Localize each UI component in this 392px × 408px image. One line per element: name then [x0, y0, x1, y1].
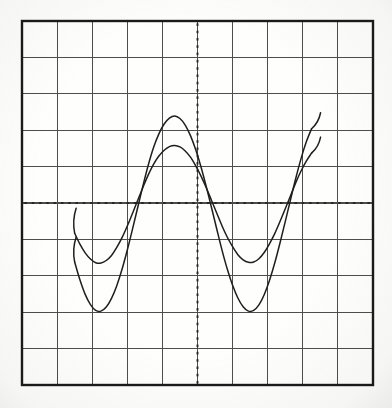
center-axis-tick-horizontal	[97, 202, 100, 204]
center-axis-tick-horizontal	[61, 202, 64, 204]
center-axis-tick-horizontal	[331, 202, 334, 204]
center-axis-tick-horizontal	[119, 202, 122, 204]
center-axis-tick-vertical	[197, 366, 199, 369]
center-axis-tick-horizontal	[360, 202, 363, 204]
center-axis-tick-horizontal	[367, 202, 370, 204]
center-axis-tick-vertical	[197, 359, 199, 362]
center-axis-tick-horizontal	[221, 202, 224, 204]
center-axis-tick-horizontal	[156, 202, 159, 204]
center-axis-tick-vertical	[197, 250, 199, 253]
center-axis-tick-vertical	[197, 31, 199, 34]
center-axis-tick-vertical	[197, 330, 199, 333]
center-axis-tick-horizontal	[294, 202, 297, 204]
center-axis-tick-vertical	[197, 279, 199, 282]
center-axis-tick-horizontal	[112, 202, 115, 204]
center-axis-tick-vertical	[197, 140, 199, 143]
center-axis-tick-vertical	[197, 293, 199, 296]
center-axis-tick-vertical	[197, 352, 199, 355]
center-axis-tick-vertical	[197, 264, 199, 267]
center-axis-tick-horizontal	[185, 202, 188, 204]
center-axis-tick-horizontal	[353, 202, 356, 204]
center-axis-tick-horizontal	[346, 202, 349, 204]
center-axis-tick-vertical	[197, 308, 199, 311]
center-axis-tick-vertical	[197, 381, 199, 384]
center-axis-tick-vertical	[197, 177, 199, 180]
center-axis-tick-horizontal	[75, 202, 78, 204]
center-axis-tick-vertical	[197, 67, 199, 70]
center-axis-tick-horizontal	[46, 202, 49, 204]
center-axis-tick-vertical	[197, 213, 199, 216]
center-axis-tick-horizontal	[39, 202, 42, 204]
center-axis-tick-horizontal	[170, 202, 173, 204]
center-axis-tick-horizontal	[90, 202, 93, 204]
center-axis-tick-vertical	[197, 374, 199, 377]
center-axis-tick-horizontal	[309, 202, 312, 204]
center-axis-tick-horizontal	[200, 202, 203, 204]
oscilloscope-screen-photograph	[0, 0, 392, 408]
center-axis-tick-horizontal	[324, 202, 327, 204]
center-axis-tick-horizontal	[258, 202, 261, 204]
center-axis-tick-horizontal	[207, 202, 210, 204]
center-axis-tick-vertical	[197, 220, 199, 223]
center-axis-tick-vertical	[197, 133, 199, 136]
center-axis-tick-horizontal	[273, 202, 276, 204]
center-axis-tick-vertical	[197, 315, 199, 318]
center-axis-tick-vertical	[197, 111, 199, 114]
center-axis-tick-vertical	[197, 286, 199, 289]
center-axis-tick-vertical	[197, 191, 199, 194]
center-axis-tick-vertical	[197, 206, 199, 209]
center-axis-tick-vertical	[197, 23, 199, 26]
center-axis-tick-vertical	[197, 126, 199, 129]
center-axis-tick-horizontal	[148, 202, 151, 204]
center-axis-tick-vertical	[197, 74, 199, 77]
center-axis-tick-vertical	[197, 118, 199, 121]
center-axis-tick-horizontal	[229, 202, 232, 204]
center-axis-tick-vertical	[197, 45, 199, 48]
center-axis-tick-vertical	[197, 96, 199, 99]
center-axis-tick-vertical	[197, 60, 199, 63]
center-axis-tick-horizontal	[192, 202, 195, 204]
center-axis-tick-horizontal	[214, 202, 217, 204]
center-axis-tick-horizontal	[54, 202, 57, 204]
center-axis-tick-vertical	[197, 235, 199, 238]
center-axis-tick-horizontal	[32, 202, 35, 204]
center-axis-tick-vertical	[197, 104, 199, 107]
center-axis-tick-vertical	[197, 272, 199, 275]
center-axis-tick-horizontal	[68, 202, 71, 204]
center-axis-tick-vertical	[197, 242, 199, 245]
center-axis-tick-horizontal	[24, 202, 27, 204]
center-axis-tick-vertical	[197, 184, 199, 187]
center-axis-tick-horizontal	[163, 202, 166, 204]
center-axis-tick-vertical	[197, 38, 199, 41]
center-axis-tick-vertical	[197, 89, 199, 92]
center-axis-tick-vertical	[197, 301, 199, 304]
scope-graticule-and-traces	[0, 0, 392, 408]
center-axis-tick-vertical	[197, 228, 199, 231]
center-axis-tick-horizontal	[141, 202, 144, 204]
center-axis-tick-vertical	[197, 53, 199, 56]
center-axis-tick-horizontal	[178, 202, 181, 204]
center-axis-tick-horizontal	[83, 202, 86, 204]
center-axis-tick-horizontal	[243, 202, 246, 204]
center-axis-tick-vertical	[197, 162, 199, 165]
center-axis-tick-horizontal	[302, 202, 305, 204]
center-axis-tick-vertical	[197, 199, 199, 202]
center-axis-tick-vertical	[197, 147, 199, 150]
center-axis-tick-horizontal	[251, 202, 254, 204]
center-axis-tick-vertical	[197, 323, 199, 326]
center-axis-tick-vertical	[197, 337, 199, 340]
center-axis-tick-vertical	[197, 82, 199, 85]
center-axis-tick-vertical	[197, 257, 199, 260]
center-axis-tick-horizontal	[236, 202, 239, 204]
center-axis-tick-vertical	[197, 345, 199, 348]
center-axis-tick-horizontal	[127, 202, 130, 204]
center-axis-tick-horizontal	[280, 202, 283, 204]
center-axis-tick-horizontal	[105, 202, 108, 204]
center-axis-tick-horizontal	[265, 202, 268, 204]
center-axis-tick-horizontal	[316, 202, 319, 204]
center-axis-tick-horizontal	[338, 202, 341, 204]
